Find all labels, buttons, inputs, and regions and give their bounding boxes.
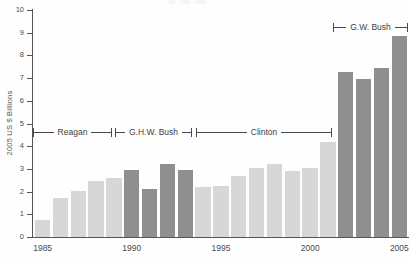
era-bracket-clinton: Clinton <box>196 128 332 137</box>
bracket-line <box>182 132 191 133</box>
bar-1985 <box>35 220 50 237</box>
bracket-cap-right <box>111 128 112 137</box>
bar-1996 <box>231 176 246 237</box>
bar-2005 <box>392 36 407 237</box>
y-tick-label-5: 5 <box>0 120 24 128</box>
bar-2001 <box>320 142 335 237</box>
bar-1999 <box>285 171 300 237</box>
y-axis-line <box>32 9 33 238</box>
y-tick-7 <box>27 78 32 79</box>
bracket-line <box>116 132 125 133</box>
bracket-label: G.H.W. Bush <box>125 127 182 137</box>
x-tick-label-1985: 1985 <box>33 243 52 253</box>
bar-chart-figure: 2005 US $ Billions 012345678910 19851990… <box>0 0 411 264</box>
y-tick-label-0: 0 <box>0 233 24 241</box>
x-tick-label-2000: 2000 <box>301 243 320 253</box>
y-tick-label-10: 10 <box>0 6 24 14</box>
y-tick-label-6: 6 <box>0 97 24 105</box>
x-tick-label-2005: 2005 <box>390 243 409 253</box>
bracket-label: Clinton <box>247 127 281 137</box>
era-bracket-g-w-bush: G.W. Bush <box>333 23 408 32</box>
bracket-line <box>334 27 346 28</box>
bracket-line <box>395 27 407 28</box>
bar-1987 <box>71 191 86 238</box>
y-tick-label-3: 3 <box>0 165 24 173</box>
y-tick-label-2: 2 <box>0 188 24 196</box>
bar-1995 <box>213 186 228 237</box>
bar-1989 <box>106 178 121 237</box>
y-tick-2 <box>27 192 32 193</box>
y-tick-10 <box>27 10 32 11</box>
bar-1993 <box>178 170 193 237</box>
y-tick-0 <box>27 237 32 238</box>
era-bracket-reagan: Reagan <box>33 128 112 137</box>
x-tick-label-1990: 1990 <box>122 243 141 253</box>
bar-1990 <box>124 170 139 237</box>
bar-2002 <box>338 72 353 237</box>
bracket-line <box>34 132 54 133</box>
bracket-line <box>197 132 247 133</box>
y-tick-3 <box>27 169 32 170</box>
bracket-label: G.W. Bush <box>346 22 395 32</box>
y-tick-label-8: 8 <box>0 51 24 59</box>
bracket-cap-right <box>407 23 408 32</box>
bar-1986 <box>53 198 68 237</box>
y-tick-1 <box>27 214 32 215</box>
era-bracket-g-h-w-bush: G.H.W. Bush <box>115 128 192 137</box>
bracket-label: Reagan <box>54 127 92 137</box>
bar-1992 <box>160 164 175 237</box>
y-tick-label-4: 4 <box>0 142 24 150</box>
bar-1991 <box>142 189 157 237</box>
bar-1988 <box>88 181 103 237</box>
cropped-title-fragment <box>168 0 214 4</box>
x-tick-label-1995: 1995 <box>212 243 231 253</box>
y-tick-label-9: 9 <box>0 29 24 37</box>
bar-2003 <box>356 79 371 237</box>
y-tick-6 <box>27 101 32 102</box>
y-tick-5 <box>27 124 32 125</box>
bar-1998 <box>267 164 282 237</box>
y-tick-4 <box>27 146 32 147</box>
y-tick-label-7: 7 <box>0 74 24 82</box>
y-tick-label-1: 1 <box>0 210 24 218</box>
bars-container <box>35 10 407 237</box>
bracket-line <box>91 132 111 133</box>
bracket-line <box>281 132 331 133</box>
bracket-cap-right <box>191 128 192 137</box>
bar-2004 <box>374 68 389 237</box>
y-tick-9 <box>27 33 32 34</box>
y-tick-8 <box>27 55 32 56</box>
bar-1994 <box>195 187 210 237</box>
bracket-cap-right <box>331 128 332 137</box>
bar-1997 <box>249 168 264 237</box>
bar-2000 <box>302 168 317 237</box>
x-axis-line <box>32 237 409 238</box>
